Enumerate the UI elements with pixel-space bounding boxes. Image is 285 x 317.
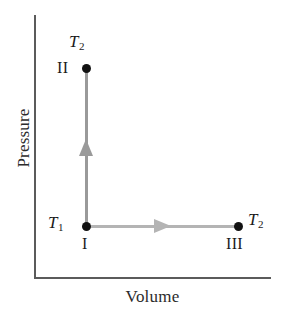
arrow-right-icon — [154, 219, 171, 233]
pressure-volume-diagram: Pressure Volume T2 II T1 I T2 III — [0, 0, 285, 317]
state-i-temperature-subscript: 1 — [57, 221, 63, 233]
state-point-i — [82, 222, 91, 231]
y-axis-line — [34, 15, 36, 279]
state-point-ii — [82, 64, 91, 73]
state-ii-temperature-subscript: 2 — [78, 40, 84, 52]
state-i-temperature-label: T1 — [48, 214, 63, 233]
arrow-up-icon — [79, 139, 93, 156]
state-iii-temperature-subscript: 2 — [257, 218, 263, 230]
state-ii-temperature-label: T2 — [69, 33, 84, 52]
y-axis-label: Pressure — [14, 78, 34, 198]
state-iii-roman-label: III — [226, 236, 243, 252]
state-ii-roman-label: II — [57, 60, 68, 76]
x-axis-label: Volume — [34, 287, 271, 307]
state-iii-temperature-label: T2 — [248, 211, 263, 230]
state-i-roman-label: I — [82, 236, 88, 252]
x-axis-line — [34, 277, 271, 279]
state-point-iii — [234, 222, 243, 231]
